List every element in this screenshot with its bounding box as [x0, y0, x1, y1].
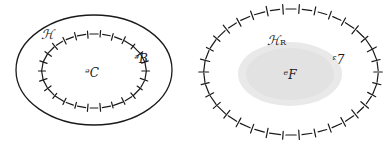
label-script-H: ℋ: [41, 27, 56, 42]
boundary-dash: [366, 39, 372, 48]
boundary-dash: [206, 85, 210, 94]
boundary-tick: [341, 118, 346, 127]
boundary-dash: [77, 106, 85, 107]
boundary-dash: [357, 31, 364, 38]
boundary-tick: [63, 37, 66, 44]
boundary-tick: [122, 37, 125, 44]
boundary-dash: [42, 71, 43, 79]
label-script-Q: ᵊC: [85, 66, 99, 80]
boundary-dash: [332, 123, 341, 127]
boundary-dash: [241, 16, 250, 20]
boundary-dash: [228, 116, 236, 122]
boundary-tick: [251, 124, 254, 133]
boundary-dash: [141, 81, 144, 87]
boundary-dash: [125, 97, 131, 101]
boundary-tick: [236, 118, 241, 127]
boundary-dash: [366, 96, 371, 103]
boundary-dash: [302, 9, 311, 10]
boundary-dash: [56, 96, 64, 101]
boundary-dash: [204, 61, 205, 71]
boundary-tick: [266, 128, 268, 137]
boundary-dash: [318, 130, 327, 132]
boundary-dash: [77, 34, 85, 35]
boundary-dash: [124, 41, 132, 46]
boundary-tick: [237, 18, 241, 26]
boundary-dash: [270, 9, 279, 10]
boundary-tick: [266, 6, 268, 16]
boundary-dash: [240, 123, 250, 127]
label-script-D: ᵉF: [284, 68, 298, 82]
boundary-dash: [270, 133, 281, 134]
boundary-dash: [218, 31, 225, 38]
label-script-P: ᵊB: [134, 52, 148, 66]
boundary-dash: [357, 107, 363, 113]
boundary-tick: [100, 31, 101, 37]
figure-canvas: ℋ ᵊB ᵊC ℋ R ᵋ7 ᵉF: [0, 0, 387, 145]
boundary-dash: [377, 62, 378, 71]
boundary-dash: [373, 50, 377, 60]
boundary-dash: [218, 106, 226, 114]
boundary-tick: [299, 130, 300, 139]
boundary-dash: [345, 23, 353, 29]
boundary-tick: [372, 60, 380, 62]
boundary-tick: [100, 103, 101, 111]
boundary-dash: [44, 81, 48, 88]
boundary-tick: [328, 124, 331, 132]
boundary-tick: [112, 102, 114, 108]
boundary-dash: [66, 37, 73, 40]
boundary-tick: [283, 131, 284, 139]
boundary-dash: [254, 12, 264, 15]
boundary-dash: [373, 84, 377, 94]
label-script-B: ᵋ7: [332, 53, 345, 67]
boundary-tick: [314, 129, 316, 137]
boundary-tick: [75, 102, 77, 108]
boundary-dash: [333, 17, 341, 21]
boundary-tick: [283, 5, 284, 15]
boundary-tick: [206, 93, 214, 97]
boundary-dash: [145, 71, 147, 80]
boundary-tick: [111, 34, 113, 41]
boundary-dash: [210, 40, 216, 49]
boundary-dash: [302, 133, 312, 134]
label-subscript-R: R: [280, 38, 287, 47]
boundary-dash: [103, 34, 111, 35]
boundary-tick: [75, 33, 77, 40]
boundary-dash: [377, 73, 378, 82]
boundary-tick: [87, 31, 88, 38]
boundary-tick: [87, 104, 88, 111]
boundary-dash: [56, 41, 62, 45]
boundary-dash: [133, 89, 140, 96]
boundary-dash: [206, 51, 209, 59]
boundary-dash: [115, 37, 122, 40]
boundary-dash: [204, 73, 205, 82]
boundary-dash: [318, 12, 327, 14]
boundary-tick: [122, 98, 125, 105]
boundary-dash: [210, 96, 216, 105]
right-panel: ℋ R ᵋ7 ᵉF: [199, 5, 383, 140]
boundary-dash: [229, 23, 237, 28]
diagram-svg: ℋ ᵊB ᵊC ℋ R ᵋ7 ᵉF: [0, 0, 387, 145]
boundary-tick: [341, 18, 345, 25]
boundary-tick: [329, 11, 332, 19]
boundary-tick: [299, 5, 300, 14]
boundary-dash: [255, 129, 265, 132]
boundary-tick: [251, 11, 254, 19]
boundary-dash: [48, 89, 53, 95]
left-panel: ℋ ᵊB ᵊC: [16, 15, 172, 125]
boundary-dash: [48, 47, 54, 53]
boundary-dash: [43, 54, 47, 62]
boundary-dash: [102, 106, 110, 107]
boundary-dash: [346, 116, 354, 121]
boundary-dash: [114, 102, 123, 105]
boundary-dash: [42, 62, 44, 71]
boundary-dash: [66, 102, 73, 105]
boundary-tick: [314, 7, 316, 15]
